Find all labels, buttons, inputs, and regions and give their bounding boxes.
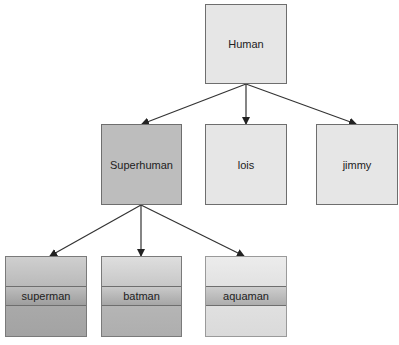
node-label: aquaman — [223, 290, 269, 302]
node-label: Human — [228, 38, 263, 50]
edge-superhuman-superman — [50, 205, 141, 256]
node-aquaman[interactable]: aquaman — [205, 256, 287, 337]
node-label: jimmy — [343, 159, 372, 171]
node-label: lois — [238, 159, 255, 171]
node-human[interactable]: Human — [205, 4, 287, 84]
node-label: batman — [123, 290, 160, 302]
node-band: aquaman — [206, 286, 286, 306]
edge-superhuman-aquaman — [141, 205, 244, 256]
node-band: superman — [6, 286, 86, 306]
node-band: batman — [102, 286, 181, 306]
node-batman[interactable]: batman — [101, 256, 182, 337]
edge-human-superhuman — [142, 84, 246, 124]
edge-human-jimmy — [246, 84, 356, 124]
node-label: Superhuman — [110, 159, 173, 171]
node-lois[interactable]: lois — [205, 124, 287, 205]
node-superman[interactable]: superman — [5, 256, 87, 337]
node-label: superman — [22, 290, 71, 302]
node-superhuman[interactable]: Superhuman — [101, 124, 182, 205]
node-jimmy[interactable]: jimmy — [316, 124, 398, 205]
